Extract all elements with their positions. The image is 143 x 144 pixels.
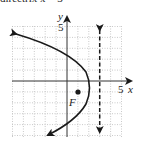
axes bbox=[12, 17, 131, 137]
x-axis-label: x bbox=[127, 83, 133, 95]
parabola-curve bbox=[16, 34, 90, 135]
x-tick-label: 5 bbox=[118, 83, 124, 95]
y-tick-label: 5 bbox=[58, 21, 64, 33]
parabola-graph: y 5 5 x F bbox=[0, 0, 143, 144]
focus-label: F bbox=[68, 96, 76, 108]
focus-point bbox=[75, 89, 80, 94]
